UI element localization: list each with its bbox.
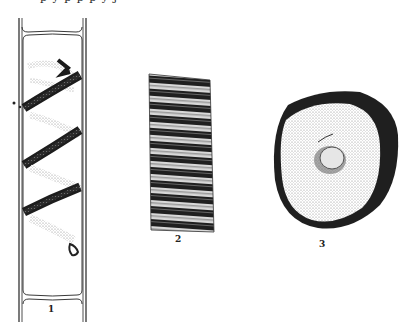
panel-2-label: 2 [175, 234, 181, 244]
panel-1-label: 1 [48, 304, 54, 314]
panel-2-striated-band [149, 74, 214, 232]
panel-3-round-cell [274, 91, 398, 228]
panel-3-label: 3 [319, 239, 325, 249]
figure-plate: 1 [0, 0, 417, 333]
panel-1-spiral-cell [13, 18, 87, 322]
